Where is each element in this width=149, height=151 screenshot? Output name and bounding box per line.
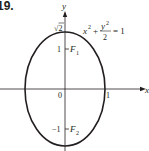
svg-text:= 1: = 1 bbox=[113, 26, 125, 36]
problem-number: 19. bbox=[0, 0, 14, 13]
y-tick-label-neg1: −1 bbox=[52, 125, 61, 134]
y-axis-label: y bbox=[61, 1, 66, 11]
svg-text:2: 2 bbox=[88, 24, 91, 30]
svg-text:+: + bbox=[93, 26, 98, 36]
x-tick-label-0: 0 bbox=[58, 91, 62, 100]
svg-text:√2: √2 bbox=[54, 24, 62, 33]
svg-text:F: F bbox=[69, 44, 76, 54]
focus-label-f2: F 2 bbox=[69, 124, 79, 136]
x-tick-label-1: 1 bbox=[106, 91, 110, 100]
y-axis-arrow-icon bbox=[63, 11, 67, 17]
svg-text:2: 2 bbox=[103, 33, 107, 42]
ellipse-equation: x 2 + y 2 2 = 1 bbox=[82, 20, 125, 42]
svg-text:F: F bbox=[69, 124, 76, 134]
svg-text:1: 1 bbox=[76, 50, 79, 56]
ellipse-figure: 19. x y √2 1 −1 F 1 F 2 0 1 x 2 + y 2 2 … bbox=[0, 0, 149, 151]
x-axis-label: x bbox=[144, 85, 149, 95]
y-tick-label-1: 1 bbox=[57, 45, 61, 54]
svg-text:x: x bbox=[82, 26, 87, 36]
svg-text:2: 2 bbox=[106, 20, 109, 26]
svg-text:y: y bbox=[100, 21, 105, 31]
svg-text:2: 2 bbox=[76, 130, 79, 136]
focus-label-f1: F 1 bbox=[69, 44, 79, 56]
